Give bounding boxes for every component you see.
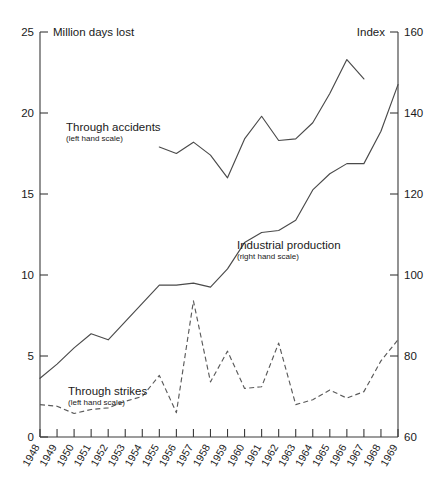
- left-tick-label: 5: [28, 350, 34, 362]
- left-axis-title: Million days lost: [53, 26, 135, 38]
- annotation-label: Through accidents: [66, 121, 161, 133]
- annotation-industrial-production: Industrial production (right hand scale): [237, 239, 341, 261]
- annotation-sublabel: (right hand scale): [237, 252, 299, 261]
- left-tick-label: 25: [21, 26, 34, 38]
- annotation-sublabel: (left hand scale): [66, 134, 123, 143]
- left-tick-label: 10: [21, 269, 34, 281]
- right-tick-label: 100: [404, 269, 423, 281]
- annotation-through-strikes: Through strikes (left hand scale): [68, 385, 148, 407]
- right-tick-label: 160: [404, 26, 423, 38]
- x-axis-tick-label: 1969: [378, 442, 400, 468]
- left-axis-tick-labels: 25 20 15 10 5 0: [21, 26, 34, 443]
- x-axis-ticks: [40, 429, 398, 437]
- left-tick-label: 20: [21, 107, 34, 119]
- chart-svg: 25 20 15 10 5 0 160 140 120 100 80 60 Mi…: [0, 0, 440, 502]
- left-tick-label: 0: [28, 431, 34, 443]
- right-tick-label: 80: [404, 350, 417, 362]
- annotation-sublabel: (left hand scale): [68, 398, 125, 407]
- annotation-label: Industrial production: [237, 239, 341, 251]
- left-tick-label: 15: [21, 188, 34, 200]
- x-axis-tick-labels: 1948194919501951195219531954195519561957…: [20, 442, 400, 468]
- annotation-through-accidents: Through accidents (left hand scale): [66, 121, 161, 143]
- right-axis-tick-labels: 160 140 120 100 80 60: [404, 26, 423, 443]
- right-axis-title: Index: [357, 26, 385, 38]
- right-tick-label: 120: [404, 188, 423, 200]
- right-axis-ticks: [390, 32, 398, 356]
- right-tick-label: 140: [404, 107, 423, 119]
- right-tick-label: 60: [404, 431, 417, 443]
- chart-container: 25 20 15 10 5 0 160 140 120 100 80 60 Mi…: [0, 0, 440, 502]
- annotation-label: Through strikes: [68, 385, 148, 397]
- series-through-accidents: [159, 60, 364, 178]
- left-axis-ticks: [40, 32, 48, 437]
